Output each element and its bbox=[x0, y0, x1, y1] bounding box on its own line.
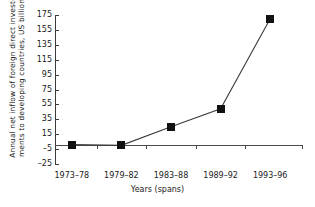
plot-area: 1751551351159575553515–5–25 bbox=[55, 12, 303, 167]
y-tick-label: 155 bbox=[37, 26, 52, 34]
y-tick-label: 115 bbox=[37, 56, 52, 64]
chart-figure: Annual net inflow of foreign direct inve… bbox=[0, 0, 315, 207]
y-tick-label: –25 bbox=[38, 160, 52, 168]
y-tick-label: 75 bbox=[42, 86, 52, 94]
y-tick-label: –5 bbox=[43, 145, 52, 153]
data-point-marker bbox=[167, 123, 175, 131]
x-axis-title: Years (spans) bbox=[0, 185, 315, 194]
data-point-marker bbox=[266, 15, 274, 23]
x-tick-label: 1973–78 bbox=[55, 172, 90, 180]
x-tick-label: 1993–96 bbox=[253, 172, 288, 180]
y-axis-title: Annual net inflow of foreign direct inve… bbox=[1, 0, 33, 158]
series-line bbox=[55, 12, 303, 167]
data-point-marker bbox=[68, 141, 76, 149]
data-point-marker bbox=[117, 141, 125, 149]
data-point-marker bbox=[217, 105, 225, 113]
x-tick-label: 1979–82 bbox=[104, 172, 139, 180]
y-tick-label: 135 bbox=[37, 41, 52, 49]
y-tick-label: 55 bbox=[42, 100, 52, 108]
y-axis-title-line-2: ments to developing countries, US billio… bbox=[17, 0, 26, 157]
y-tick-label: 35 bbox=[42, 115, 52, 123]
y-tick-label: 15 bbox=[42, 130, 52, 138]
y-tick-label: 175 bbox=[37, 11, 52, 19]
y-tick-label: 95 bbox=[42, 71, 52, 79]
x-tick-label: 1989–92 bbox=[203, 172, 238, 180]
y-axis-title-line-1: Annual net inflow of foreign direct inve… bbox=[8, 0, 17, 158]
x-tick-label: 1983–88 bbox=[154, 172, 189, 180]
